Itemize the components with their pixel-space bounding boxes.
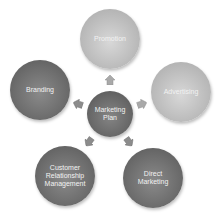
node-advertising: Advertising (151, 62, 211, 122)
arrow-lower-right-icon (122, 135, 136, 149)
node-label: Advertising (160, 88, 203, 96)
node-branding: Branding (10, 60, 70, 120)
node-label: Customer Relationship Management (38, 164, 92, 188)
node-label: Branding (22, 86, 58, 94)
arrow-left-icon (72, 98, 85, 111)
node-label: Direct Marketing (132, 170, 174, 186)
node-direct-marketing: Direct Marketing (123, 148, 183, 208)
arrow-right-icon (136, 98, 149, 111)
node-label: Promotion (90, 35, 130, 43)
node-marketing-plan: Marketing Plan (87, 91, 133, 137)
arrow-lower-left-icon (82, 135, 96, 149)
center-label: Marketing Plan (90, 106, 130, 122)
node-promotion: Promotion (80, 9, 140, 69)
node-crm: Customer Relationship Management (35, 146, 95, 206)
arrow-up-icon (105, 75, 115, 85)
